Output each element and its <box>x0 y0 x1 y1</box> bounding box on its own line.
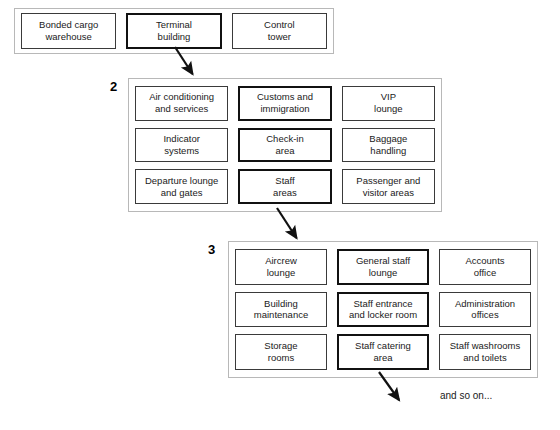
arrow-staff-areas-to-level-3 <box>277 208 297 238</box>
node-administration-offices[interactable]: Administration offices <box>439 292 531 328</box>
node-general-staff-lounge[interactable]: General staff lounge <box>337 249 429 285</box>
node-customs-and-immigration[interactable]: Customs and immigration <box>238 86 331 121</box>
node-bonded-cargo-warehouse[interactable]: Bonded cargo warehouse <box>21 13 116 49</box>
level-1-group: Bonded cargo warehouse Terminal building… <box>14 8 334 54</box>
node-staff-washrooms-and-toilets[interactable]: Staff washrooms and toilets <box>439 334 531 370</box>
node-building-maintenance[interactable]: Building maintenance <box>235 292 327 328</box>
level-2-box-grid: Air conditioning and services Customs an… <box>135 86 435 204</box>
node-terminal-building[interactable]: Terminal building <box>126 13 221 49</box>
node-staff-entrance-and-locker-room[interactable]: Staff entrance and locker room <box>337 292 429 328</box>
node-passenger-and-visitor-areas[interactable]: Passenger and visitor areas <box>342 169 435 204</box>
level-3-box-grid: Aircrew lounge General staff lounge Acco… <box>235 249 531 370</box>
node-staff-catering-area[interactable]: Staff catering area <box>337 334 429 370</box>
level-3-group: Aircrew lounge General staff lounge Acco… <box>228 241 538 378</box>
node-baggage-handling[interactable]: Baggage handling <box>342 128 435 163</box>
node-accounts-office[interactable]: Accounts office <box>439 249 531 285</box>
node-storage-rooms[interactable]: Storage rooms <box>235 334 327 370</box>
node-check-in-area[interactable]: Check-in area <box>238 128 331 163</box>
level-2-number-label: 2 <box>110 80 117 93</box>
level-3-number-label: 3 <box>208 243 215 256</box>
node-vip-lounge[interactable]: VIP lounge <box>342 86 435 121</box>
node-staff-areas[interactable]: Staff areas <box>238 169 331 204</box>
node-departure-lounge-and-gates[interactable]: Departure lounge and gates <box>135 169 228 204</box>
node-indicator-systems[interactable]: Indicator systems <box>135 128 228 163</box>
diagram-canvas: Bonded cargo warehouse Terminal building… <box>0 0 560 430</box>
node-aircrew-lounge[interactable]: Aircrew lounge <box>235 249 327 285</box>
node-air-conditioning-and-services[interactable]: Air conditioning and services <box>135 86 228 121</box>
node-control-tower[interactable]: Control tower <box>232 13 327 49</box>
level-1-box-grid: Bonded cargo warehouse Terminal building… <box>21 13 327 49</box>
level-2-group: Air conditioning and services Customs an… <box>128 78 442 212</box>
and-so-on-caption: and so on... <box>440 391 492 401</box>
